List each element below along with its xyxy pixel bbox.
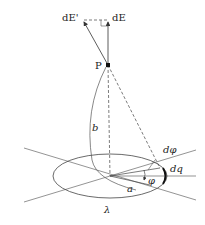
r-dashed [108,65,160,168]
label-b: b [92,123,98,133]
label-phi: φ [148,176,155,186]
phi-arc [144,170,145,180]
label-dE-prime: dE' [62,13,78,23]
label-P: P [95,61,102,71]
label-a: a [127,184,133,194]
label-dE: dE [112,13,126,23]
right-angle-mark [101,20,108,26]
dphi-pointer [148,160,155,170]
diagram-canvas [0,0,205,225]
dE-prime-vector [84,22,108,65]
ring-field-diagram: dE' dE P b a φ dφ dq λ [0,0,205,225]
axis-line-1 [24,148,196,200]
label-dphi: dφ [163,145,176,155]
point-P [106,63,110,67]
axis-dashed [108,65,110,176]
label-lambda: λ [104,205,110,215]
label-dq: dq [170,164,183,174]
